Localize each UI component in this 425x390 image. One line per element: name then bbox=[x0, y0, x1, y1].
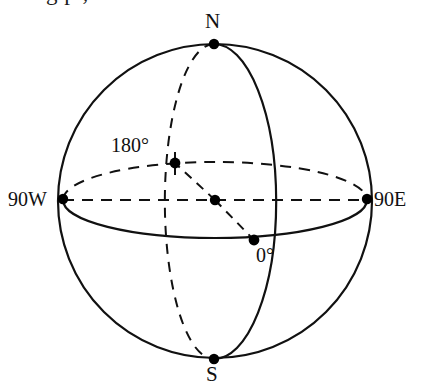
meridian-180-arc bbox=[165, 44, 214, 359]
radial-line-center-180 bbox=[175, 163, 215, 200]
point-90e bbox=[362, 194, 372, 204]
sphere-diagram-figure: g p , N S bbox=[0, 0, 425, 390]
label-north-pole: N bbox=[205, 11, 220, 32]
sphere-drawing bbox=[0, 0, 425, 390]
label-south-pole: S bbox=[206, 364, 218, 385]
point-north-pole bbox=[209, 39, 219, 49]
point-meridian-180 bbox=[170, 158, 181, 169]
point-center bbox=[210, 195, 220, 205]
point-90w bbox=[58, 194, 68, 204]
label-meridian-180: 180° bbox=[111, 135, 149, 155]
equator-back-arc bbox=[63, 162, 367, 200]
radial-line-center-0 bbox=[215, 200, 254, 240]
label-meridian-0: 0° bbox=[256, 245, 274, 265]
label-90e: 90E bbox=[374, 189, 406, 209]
meridian-0-arc bbox=[214, 44, 276, 359]
label-90w: 90W bbox=[8, 189, 47, 209]
equator-front-arc bbox=[63, 200, 367, 238]
